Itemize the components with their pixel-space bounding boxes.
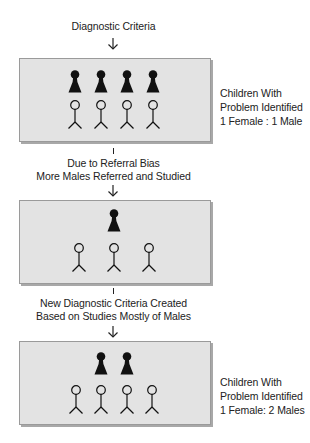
population-box-initial xyxy=(19,58,211,142)
female-figure-icon xyxy=(119,70,135,94)
down-arrow-icon xyxy=(107,326,119,338)
side-label-ratio: 1 Female : 1 Male xyxy=(220,114,303,128)
connector-tick xyxy=(113,148,114,154)
female-figure-icon xyxy=(93,352,109,376)
caption-line: New Diagnostic Criteria Created xyxy=(0,297,227,310)
female-figure-icon xyxy=(93,70,109,94)
side-label-line: Children With xyxy=(220,375,305,389)
female-figure-icon xyxy=(106,209,122,233)
side-label-line: Problem Identified xyxy=(220,100,303,114)
male-figure-icon xyxy=(119,100,135,130)
male-figure-icon xyxy=(67,100,83,130)
male-figure-icon xyxy=(145,100,161,130)
side-label-ratio: 1 Female: 2 Males xyxy=(220,403,305,417)
side-label-line: Problem Identified xyxy=(220,389,305,403)
population-box-new-criteria xyxy=(19,341,211,425)
male-figure-icon xyxy=(93,385,109,415)
side-label-new-criteria: Children With Problem Identified 1 Femal… xyxy=(220,375,305,417)
male-figure-icon xyxy=(106,243,122,273)
female-figure-icon xyxy=(145,70,161,94)
caption-referral-bias: Due to Referral Bias More Males Referred… xyxy=(0,157,227,183)
male-figure-icon xyxy=(71,243,87,273)
male-figure-icon xyxy=(93,100,109,130)
down-arrow-icon xyxy=(107,38,119,50)
side-label-initial: Children With Problem Identified 1 Femal… xyxy=(220,86,303,128)
male-figure-icon xyxy=(141,243,157,273)
down-arrow-icon xyxy=(107,185,119,197)
male-figure-icon xyxy=(144,385,160,415)
caption-diagnostic-criteria: Diagnostic Criteria xyxy=(0,20,227,33)
side-label-line: Children With xyxy=(220,86,303,100)
caption-line: More Males Referred and Studied xyxy=(0,170,227,183)
male-figure-icon xyxy=(68,385,84,415)
caption-line: Diagnostic Criteria xyxy=(0,20,227,33)
female-figure-icon xyxy=(119,352,135,376)
female-figure-icon xyxy=(67,70,83,94)
caption-new-criteria: New Diagnostic Criteria Created Based on… xyxy=(0,297,227,323)
caption-line: Due to Referral Bias xyxy=(0,157,227,170)
caption-line: Based on Studies Mostly of Males xyxy=(0,310,227,323)
male-figure-icon xyxy=(119,385,135,415)
connector-tick xyxy=(113,288,114,294)
